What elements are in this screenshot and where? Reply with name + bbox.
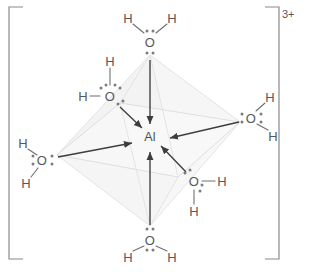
hydrogen-label-water-bottom-right: H bbox=[167, 251, 177, 264]
oxygen-label-water-lower-right: O bbox=[189, 175, 199, 188]
lone-pair-upperleft-lowerright bbox=[117, 100, 125, 106]
lone-pair-bottom-above bbox=[146, 228, 155, 231]
hydrogen-label-water-left-lower: H bbox=[21, 177, 31, 190]
lone-pair-top-above bbox=[146, 30, 155, 33]
oxygen-label-water-right: O bbox=[246, 112, 256, 125]
lone-pair-top-below bbox=[146, 52, 155, 55]
lone-pair-right-left bbox=[241, 113, 244, 124]
lone-pair-bottom-below bbox=[146, 249, 155, 252]
hydrogen-label-water-top-left: H bbox=[123, 12, 133, 25]
lone-pair-lowerright-lowerright bbox=[199, 184, 204, 193]
hydrogen-label-water-upper-left-side: H bbox=[78, 90, 88, 103]
hydrogen-label-water-lower-right-bottom: H bbox=[189, 205, 199, 218]
hydrogen-label-water-lower-right-side: H bbox=[217, 175, 227, 188]
hydrogen-label-water-right-upper: H bbox=[265, 91, 275, 104]
hydrogen-label-water-bottom-left: H bbox=[123, 251, 133, 264]
central-atom-label: Al bbox=[144, 131, 156, 144]
oxygen-label-water-bottom: O bbox=[145, 234, 155, 247]
lone-pair-right-right bbox=[260, 113, 263, 124]
hydrogen-label-water-left-upper: H bbox=[18, 137, 28, 150]
hydrogen-label-water-right-lower: H bbox=[268, 130, 278, 143]
lewis-structure-figure: 3+ bbox=[0, 0, 317, 272]
hydrogen-label-water-upper-left-top: H bbox=[105, 55, 115, 68]
oxygen-label-water-top: O bbox=[145, 36, 155, 49]
oxygen-label-water-left: O bbox=[37, 154, 47, 167]
oxygen-label-water-upper-left: O bbox=[105, 90, 115, 103]
hydrogen-label-water-top-right: H bbox=[167, 12, 177, 25]
lone-pair-left-left bbox=[32, 155, 35, 166]
lone-pair-left-right bbox=[51, 155, 54, 166]
